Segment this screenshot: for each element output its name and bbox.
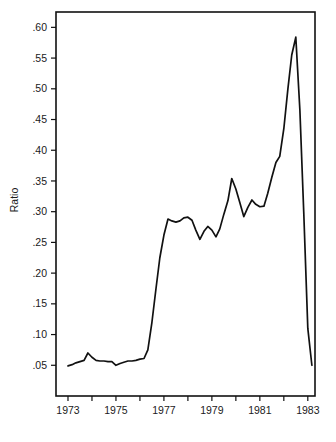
x-tick-label: 1979 [200, 404, 224, 416]
line-chart-svg: .05.10.15.20.25.30.35.40.45.50.55.60 197… [0, 0, 336, 442]
plot-area-border [56, 12, 315, 396]
x-tick-label: 1981 [248, 404, 272, 416]
figure-caption-partial [6, 431, 126, 441]
y-tick-label: .60 [32, 21, 47, 33]
y-tick-label: .50 [32, 82, 47, 94]
y-tick-label: .05 [32, 359, 47, 371]
y-tick-label: .25 [32, 236, 47, 248]
y-axis-ticks: .05.10.15.20.25.30.35.40.45.50.55.60 [32, 21, 56, 371]
figure-caption-text [6, 431, 126, 437]
x-tick-label: 1977 [152, 404, 176, 416]
y-tick-label: .45 [32, 113, 47, 125]
y-tick-label: .10 [32, 328, 47, 340]
x-tick-label: 1983 [296, 404, 320, 416]
x-tick-label: 1973 [56, 404, 80, 416]
y-tick-label: .15 [32, 297, 47, 309]
y-tick-label: .30 [32, 205, 47, 217]
plot-frame [56, 12, 315, 396]
y-tick-label: .20 [32, 267, 47, 279]
x-axis-ticks: 197319751977197919811983 [56, 396, 319, 416]
y-tick-label: .55 [32, 52, 47, 64]
y-axis-title: Ratio [8, 188, 20, 213]
y-tick-label: .40 [32, 144, 47, 156]
chart-figure: .05.10.15.20.25.30.35.40.45.50.55.60 197… [0, 0, 336, 442]
x-tick-label: 1975 [104, 404, 128, 416]
y-tick-label: .35 [32, 175, 47, 187]
